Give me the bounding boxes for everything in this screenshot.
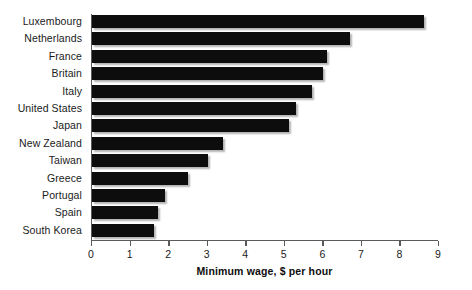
category-label: New Zealand bbox=[19, 137, 82, 150]
category-label: South Korea bbox=[23, 224, 82, 237]
bar bbox=[92, 137, 223, 150]
bar bbox=[92, 85, 312, 98]
x-axis-tick-label: 0 bbox=[79, 248, 103, 260]
x-axis-tick bbox=[361, 241, 362, 246]
bar bbox=[92, 102, 296, 115]
bar bbox=[92, 224, 154, 237]
x-axis-title: Minimum wage, $ per hour bbox=[91, 265, 438, 277]
x-axis-tick bbox=[284, 241, 285, 246]
bar-fill bbox=[92, 137, 223, 150]
x-axis-tick bbox=[207, 241, 208, 246]
x-axis-tick-label: 3 bbox=[195, 248, 219, 260]
x-axis-line bbox=[91, 240, 438, 241]
x-axis-tick-label: 9 bbox=[426, 248, 450, 260]
x-axis-tick bbox=[322, 241, 323, 246]
x-axis-tick-label: 7 bbox=[349, 248, 373, 260]
bar bbox=[92, 15, 424, 28]
category-label: Britain bbox=[52, 67, 82, 80]
bar bbox=[92, 50, 327, 63]
x-axis-tick-label: 5 bbox=[272, 248, 296, 260]
x-axis-tick-label: 8 bbox=[387, 248, 411, 260]
category-axis-labels: LuxembourgNetherlandsFranceBritainItalyU… bbox=[0, 14, 86, 240]
bar-fill bbox=[92, 224, 154, 237]
bar-fill bbox=[92, 15, 424, 28]
bar-fill bbox=[92, 102, 296, 115]
bar bbox=[92, 119, 289, 132]
bar-fill bbox=[92, 32, 350, 45]
x-axis-tick bbox=[245, 241, 246, 246]
x-axis-tick bbox=[168, 241, 169, 246]
bar-fill bbox=[92, 189, 165, 202]
bar bbox=[92, 154, 208, 167]
category-label: Spain bbox=[55, 206, 82, 219]
bar bbox=[92, 32, 350, 45]
category-label: United States bbox=[18, 102, 82, 115]
bar bbox=[92, 189, 165, 202]
category-label: Luxembourg bbox=[23, 15, 82, 28]
bar bbox=[92, 67, 323, 80]
x-axis-tick bbox=[130, 241, 131, 246]
bar-fill bbox=[92, 154, 208, 167]
x-axis-tick bbox=[438, 241, 439, 246]
category-label: France bbox=[49, 50, 82, 63]
minimum-wage-bar-chart: LuxembourgNetherlandsFranceBritainItalyU… bbox=[0, 0, 472, 290]
x-axis-tick-label: 1 bbox=[118, 248, 142, 260]
x-axis-tick bbox=[399, 241, 400, 246]
category-label: Netherlands bbox=[24, 32, 82, 45]
x-axis-tick bbox=[91, 241, 92, 246]
bar-fill bbox=[92, 85, 312, 98]
bar-fill bbox=[92, 119, 289, 132]
x-axis: 0123456789 bbox=[91, 240, 438, 241]
bar-fill bbox=[92, 50, 327, 63]
category-label: Italy bbox=[62, 85, 82, 98]
bar-fill bbox=[92, 67, 323, 80]
plot-area bbox=[91, 14, 438, 240]
x-axis-tick-label: 4 bbox=[233, 248, 257, 260]
category-label: Greece bbox=[47, 172, 82, 185]
category-label: Taiwan bbox=[49, 154, 82, 167]
category-label: Portugal bbox=[42, 189, 82, 202]
category-label: Japan bbox=[53, 119, 82, 132]
bar bbox=[92, 206, 158, 219]
x-axis-tick-label: 2 bbox=[156, 248, 180, 260]
bar-fill bbox=[92, 206, 158, 219]
bar bbox=[92, 172, 188, 185]
x-axis-tick-label: 6 bbox=[310, 248, 334, 260]
bar-fill bbox=[92, 172, 188, 185]
